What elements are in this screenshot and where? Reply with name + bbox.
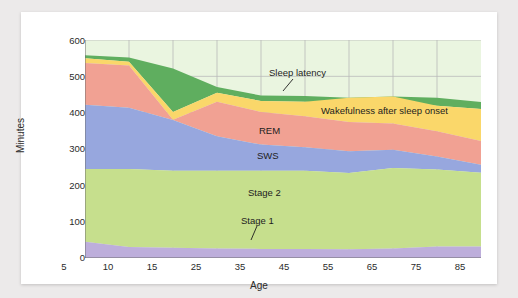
x-tick-55: 55 <box>313 262 343 272</box>
y-axis: 600 500 400 300 200 100 0 Minutes <box>21 12 85 298</box>
chart-page: 600 500 400 300 200 100 0 Minutes <box>0 0 518 298</box>
y-tick-400: 400 <box>45 108 85 118</box>
annotation-stage2: Stage 2 <box>248 188 281 198</box>
x-tick-75: 75 <box>401 262 431 272</box>
x-tick-5: 5 <box>49 262 79 272</box>
y-tick-600: 600 <box>45 36 85 46</box>
annotation-rem: REM <box>259 126 280 136</box>
x-tick-65: 65 <box>357 262 387 272</box>
plot-area: Sleep latency Wakefulness after sleep on… <box>85 40 481 258</box>
annotation-stage1: Stage 1 <box>241 216 274 226</box>
annotation-wakefulness: Wakefulness after sleep onset <box>321 106 448 116</box>
area-stage2 <box>85 168 481 249</box>
x-tick-10: 10 <box>93 262 123 272</box>
annotation-sleep-latency: Sleep latency <box>269 68 326 78</box>
y-tick-500: 500 <box>45 72 85 82</box>
x-tick-15: 15 <box>137 262 167 272</box>
figure-card: 600 500 400 300 200 100 0 Minutes <box>21 12 497 284</box>
y-tick-300: 300 <box>45 144 85 154</box>
y-tick-100: 100 <box>45 217 85 227</box>
y-tick-200: 200 <box>45 181 85 191</box>
x-tick-45: 45 <box>269 262 299 272</box>
x-axis-title: Age <box>0 280 518 291</box>
y-axis-title: Minutes <box>15 118 26 153</box>
x-tick-25: 25 <box>181 262 211 272</box>
x-tick-85: 85 <box>445 262 475 272</box>
x-tick-35: 35 <box>225 262 255 272</box>
annotation-sws: SWS <box>257 151 279 161</box>
